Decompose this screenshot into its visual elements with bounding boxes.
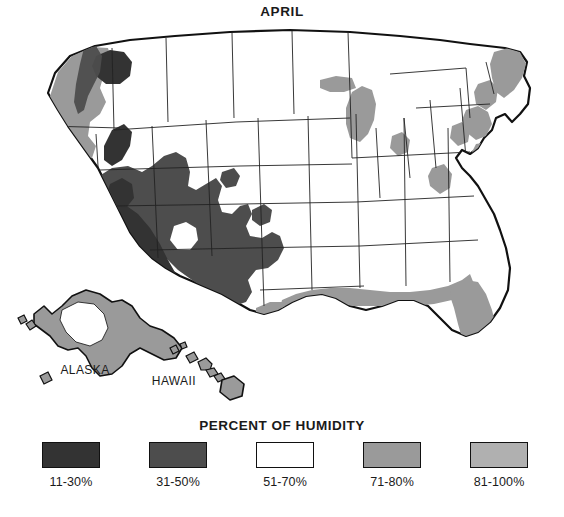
- legend-label: 81-100%: [474, 475, 525, 489]
- legend-swatch: [256, 442, 314, 468]
- legend-swatch: [470, 442, 528, 468]
- legend-swatch: [149, 442, 207, 468]
- alaska-inset: ALASKA: [18, 290, 182, 384]
- humidity-choropleth-map: ALASKA HAWAII: [0, 18, 564, 408]
- legend-item: 81-100%: [460, 442, 538, 489]
- legend-item: 71-80%: [353, 442, 431, 489]
- legend-item: 51-70%: [246, 442, 324, 489]
- legend-swatch: [363, 442, 421, 468]
- legend-title: PERCENT OF HUMIDITY: [0, 418, 564, 433]
- legend-label: 51-70%: [263, 475, 307, 489]
- legend-item: 31-50%: [139, 442, 217, 489]
- legend-label: 71-80%: [370, 475, 414, 489]
- alaska-label: ALASKA: [60, 363, 109, 377]
- page-title: APRIL: [0, 4, 564, 19]
- legend-label: 31-50%: [156, 475, 200, 489]
- legend-item: 11-30%: [32, 442, 110, 489]
- hawaii-label: HAWAII: [152, 374, 196, 388]
- legend: PERCENT OF HUMIDITY 11-30% 31-50% 51-70%…: [0, 418, 564, 489]
- legend-swatch: [42, 442, 100, 468]
- legend-items: 11-30% 31-50% 51-70% 71-80% 81-100%: [0, 442, 564, 489]
- legend-label: 11-30%: [50, 475, 93, 489]
